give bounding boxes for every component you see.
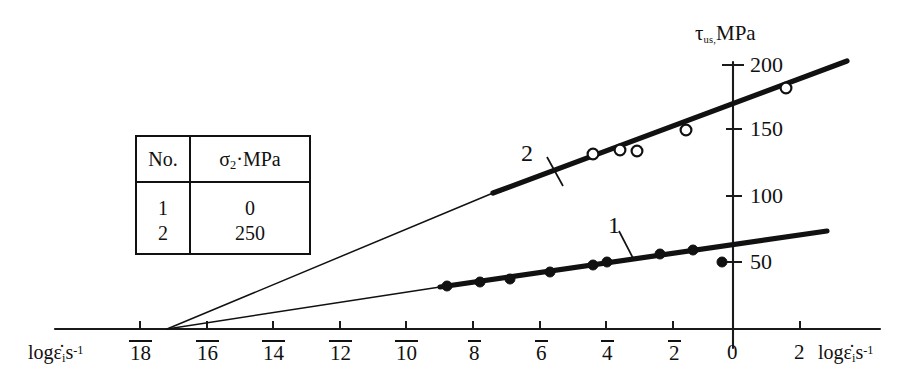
x-axis-label-right: logε̇is-1 <box>818 341 874 366</box>
y-tick-label-150: 150 <box>750 116 783 142</box>
y-axis-title: τus,MPa <box>695 21 756 46</box>
x-tick-label-0: 0 <box>727 342 738 363</box>
y-tick-label-100: 100 <box>750 183 783 209</box>
legend-row-2-sigma: 250 <box>190 222 310 245</box>
x-tick-label-neg14: 14 <box>262 340 285 364</box>
x-axis-ticks <box>140 311 800 329</box>
curve-2-label: 2 <box>521 140 533 167</box>
legend-header-no: No. <box>136 148 190 171</box>
legend-header-sigma: σ2·MPa <box>190 148 310 173</box>
x-tick-label-neg2: 2 <box>668 340 681 364</box>
y-tick-label-200: 200 <box>750 52 783 78</box>
x-tick-label-neg6: 6 <box>535 340 548 364</box>
x-tick-label-neg12: 12 <box>329 340 352 364</box>
curve-1-leader-line <box>619 231 634 260</box>
x-tick-label-neg16: 16 <box>196 340 219 364</box>
y-axis-title-subscript: us, <box>703 34 716 45</box>
x-tick-label-neg4: 4 <box>601 340 614 364</box>
series-2-curve <box>167 61 847 329</box>
y-tick-label-50: 50 <box>750 249 772 275</box>
y-axis-title-unit: MPa <box>716 21 756 45</box>
x-tick-label-pos2: 2 <box>794 342 805 363</box>
series-1-extrapolation <box>167 287 440 329</box>
legend-row-2-no: 2 <box>136 222 190 245</box>
x-tick-label-neg10: 10 <box>395 340 418 364</box>
x-tick-label-neg18: 18 <box>129 340 152 364</box>
legend-row-1-sigma: 0 <box>190 197 310 220</box>
legend-row-1-no: 1 <box>136 197 190 220</box>
series-1-curve <box>167 231 827 329</box>
x-axis-label-left: logε̇is-1 <box>28 341 84 366</box>
figure-container: τus,MPa 200 150 100 50 18 16 14 12 10 8 … <box>0 0 923 382</box>
plot-canvas <box>0 0 923 382</box>
x-tick-label-neg8: 8 <box>468 340 481 364</box>
curve-1-label: 1 <box>608 212 620 239</box>
series-2-fit-line <box>493 61 847 193</box>
